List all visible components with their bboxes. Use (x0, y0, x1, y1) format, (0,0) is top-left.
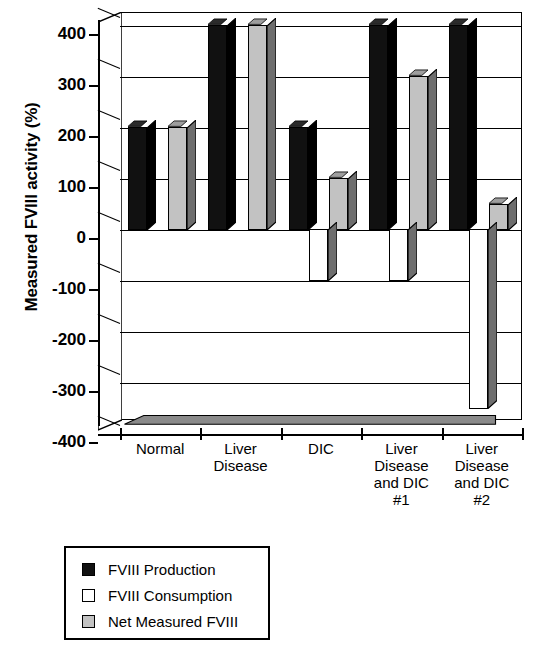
bar-side-face (388, 18, 397, 230)
y-tick-200 (89, 136, 98, 138)
bar (208, 18, 227, 230)
y-tick-label: -400 (22, 432, 86, 452)
y-tick-label: 100 (22, 177, 86, 197)
y-tick-label: -200 (22, 330, 86, 350)
bar (469, 222, 488, 409)
legend-item-label: Net Measured FVIII (108, 613, 238, 630)
x-axis-category-label: DIC (281, 440, 361, 457)
bar (248, 18, 267, 230)
legend-item-label: FVIII Consumption (108, 587, 232, 604)
y-tick-300 (89, 85, 98, 87)
bar-front-face (208, 25, 227, 230)
bar-top-face (208, 18, 227, 26)
bar-front-face (409, 76, 428, 230)
bar-front-face (469, 229, 488, 409)
bar-top-face (128, 120, 147, 128)
bar-top-face (489, 197, 508, 205)
legend-swatch-icon (82, 589, 95, 602)
bar-side-face (348, 171, 357, 230)
bar-top-face (329, 171, 348, 179)
x-tick (442, 428, 444, 440)
legend: FVIII ProductionFVIII ConsumptionNet Mea… (64, 546, 270, 640)
bar-side-face (428, 69, 437, 230)
bar (128, 120, 147, 230)
bar-top-face (369, 18, 388, 26)
bar-front-face (449, 25, 468, 230)
bar-front-face (168, 127, 187, 230)
y-tick-100 (89, 187, 98, 189)
bar-side-face (267, 18, 276, 230)
y-tick-label: -300 (22, 381, 86, 401)
bar (168, 120, 187, 230)
bar-top-face (449, 18, 468, 26)
legend-item[interactable]: Net Measured FVIII (82, 608, 268, 634)
y-tick--100 (89, 289, 98, 291)
y-tick-400 (89, 34, 98, 36)
bar-front-face (128, 127, 147, 230)
legend-swatch-icon (82, 563, 95, 576)
bar-side-face (468, 18, 477, 230)
bar-front-face (248, 25, 267, 230)
legend-item[interactable]: FVIII Production (82, 556, 268, 582)
x-axis-category-label: Liver Disease and DIC #2 (442, 440, 522, 508)
bar (449, 18, 468, 230)
bar-front-face (289, 127, 308, 230)
legend-item-label: FVIII Production (108, 561, 216, 578)
figure: Measured FVIII activity (%) 400300200100… (0, 0, 541, 655)
gridline--200 (120, 332, 522, 333)
x-axis-category-label: Liver Disease (200, 440, 280, 474)
legend-item[interactable]: FVIII Consumption (82, 582, 268, 608)
legend-swatch-icon (82, 615, 95, 628)
x-axis-category-label: Normal (120, 440, 200, 457)
bar-top-face (409, 69, 428, 77)
bar-front-face (369, 25, 388, 230)
bar-top-face (248, 18, 267, 26)
bar-side-face (227, 18, 236, 230)
x-tick (281, 428, 283, 440)
plot-floor (98, 412, 522, 426)
bar-side-face (328, 222, 337, 281)
y-tick-0 (89, 238, 98, 240)
y-tick-label: 0 (22, 228, 86, 248)
x-tick (120, 428, 122, 440)
bar-side-face (308, 120, 317, 230)
bar (409, 69, 428, 230)
y-tick-label: 200 (22, 126, 86, 146)
y-axis-line (98, 20, 100, 426)
bar (389, 222, 408, 281)
bar-front-face (389, 229, 408, 281)
x-tick (361, 428, 363, 440)
y-tick--300 (89, 391, 98, 393)
y-tick-label: 400 (22, 24, 86, 44)
gridline--100 (120, 281, 522, 282)
bar-side-face (187, 120, 196, 230)
plot-area (98, 12, 522, 424)
plot-left-wall (98, 12, 122, 442)
y-tick-label: -100 (22, 279, 86, 299)
x-axis-category-label: Liver Disease and DIC #1 (361, 440, 441, 508)
bar-top-face (289, 120, 308, 128)
y-tick-label: 300 (22, 75, 86, 95)
y-tick--200 (89, 340, 98, 342)
bar-top-face (168, 120, 187, 128)
bar-side-face (147, 120, 156, 230)
bar-front-face (309, 229, 328, 281)
bar-side-face (508, 197, 517, 231)
y-tick--400 (89, 442, 98, 444)
gridline--300 (120, 383, 522, 384)
bar-side-face (488, 222, 497, 409)
bar (289, 120, 308, 230)
x-tick (200, 428, 202, 440)
x-axis-line (98, 434, 522, 436)
bar-side-face (408, 222, 417, 281)
bar (369, 18, 388, 230)
y-axis-title: Measured FVIII activity (%) (22, 57, 42, 357)
bar (309, 222, 328, 281)
x-tick (522, 428, 524, 440)
